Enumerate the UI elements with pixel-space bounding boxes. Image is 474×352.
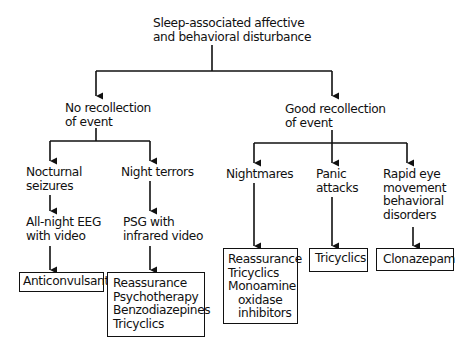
nocturnal-seizures-line-2: seizures <box>26 180 82 194</box>
night-terrors-treatment-box: Reassurance Psychotherapy Benzodiazepine… <box>107 272 205 337</box>
good-recollection-node: Good recollection of event <box>285 103 386 130</box>
clonazepam-text: Clonazepam <box>383 253 447 267</box>
nm-treatment-oxidase: oxidase <box>228 294 293 308</box>
nightmares-node: Nightmares <box>226 168 293 182</box>
no-recollection-node: No recollection of event <box>65 102 151 129</box>
root-node: Sleep-associated affective and behaviora… <box>153 17 311 44</box>
no-recollection-line-1: No recollection <box>65 102 151 116</box>
treatment-reassurance: Reassurance <box>113 277 199 291</box>
psg-test-line-1: PSG with <box>123 216 203 230</box>
root-line-2: and behavioral disturbance <box>153 31 311 45</box>
anticonvulsants-box: Anticonvulsants <box>19 272 104 292</box>
psg-test-line-2: infrared video <box>123 230 203 244</box>
nm-treatment-inhibitors: inhibitors <box>228 307 293 321</box>
nocturnal-seizures-node: Nocturnal seizures <box>26 166 82 193</box>
treatment-psychotherapy: Psychotherapy <box>113 291 199 305</box>
panic-tricyclics-box: Tricyclics <box>309 248 368 272</box>
rem-behavior-disorders-node: Rapid eye movement behavioral disorders <box>383 168 446 222</box>
nocturnal-seizures-line-1: Nocturnal <box>26 166 82 180</box>
clonazepam-box: Clonazepam <box>376 248 454 271</box>
night-terrors-line-1: Night terrors <box>121 166 194 180</box>
rem-line-1: Rapid eye <box>383 168 446 182</box>
nm-treatment-monoamine: Monoamine <box>228 280 293 294</box>
rem-line-2: movement <box>383 182 446 196</box>
nm-treatment-tricyclics: Tricyclics <box>228 267 293 281</box>
eeg-test-line-1: All-night EEG <box>26 216 101 230</box>
eeg-test-line-2: with video <box>26 230 101 244</box>
anticonvulsants-text: Anticonvulsants <box>23 275 100 289</box>
good-recollection-line-2: of event <box>285 117 386 131</box>
panic-attacks-node: Panic attacks <box>316 168 358 195</box>
treatment-tricyclics: Tricyclics <box>113 318 199 332</box>
eeg-test-node: All-night EEG with video <box>26 216 101 243</box>
flowchart-canvas: Sleep-associated affective and behaviora… <box>0 0 474 352</box>
treatment-benzodiazepines: Benzodiazepines <box>113 304 199 318</box>
nightmares-treatment-box: Reassurance Tricyclics Monoamine oxidase… <box>223 248 298 324</box>
panic-attacks-line-1: Panic <box>316 168 358 182</box>
no-recollection-line-2: of event <box>65 116 151 130</box>
good-recollection-line-1: Good recollection <box>285 103 386 117</box>
nm-treatment-reassurance: Reassurance <box>228 253 293 267</box>
night-terrors-node: Night terrors <box>121 166 194 180</box>
rem-line-4: disorders <box>383 209 446 223</box>
panic-attacks-line-2: attacks <box>316 182 358 196</box>
root-line-1: Sleep-associated affective <box>153 17 311 31</box>
psg-test-node: PSG with infrared video <box>123 216 203 243</box>
nightmares-line-1: Nightmares <box>226 168 293 182</box>
rem-line-3: behavioral <box>383 195 446 209</box>
panic-tricyclics-text: Tricyclics <box>315 252 362 266</box>
